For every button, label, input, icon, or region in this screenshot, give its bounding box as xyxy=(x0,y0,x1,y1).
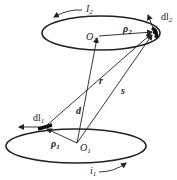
I2-current-arrow xyxy=(54,10,82,17)
i1-current-arrow xyxy=(99,163,126,172)
label-r: r xyxy=(99,75,103,86)
label-dl2: dl2 xyxy=(161,11,173,24)
label-rho1: ρ1 xyxy=(50,138,60,151)
dl2-arrow xyxy=(148,15,153,28)
label-s: s xyxy=(120,85,125,96)
label-O2: O2 xyxy=(86,31,97,44)
label-dl1: dl1 xyxy=(33,112,44,125)
loop-1-ellipse xyxy=(6,129,146,163)
label-d: d xyxy=(76,105,82,116)
label-I2: I2 xyxy=(85,3,93,16)
label-O1: O1 xyxy=(80,142,91,155)
two-loops-diagram: I2 O2 ρ2 dl2 r d s dl1 ρ1 O1 i1 xyxy=(0,0,177,180)
label-i1: i1 xyxy=(90,165,96,178)
